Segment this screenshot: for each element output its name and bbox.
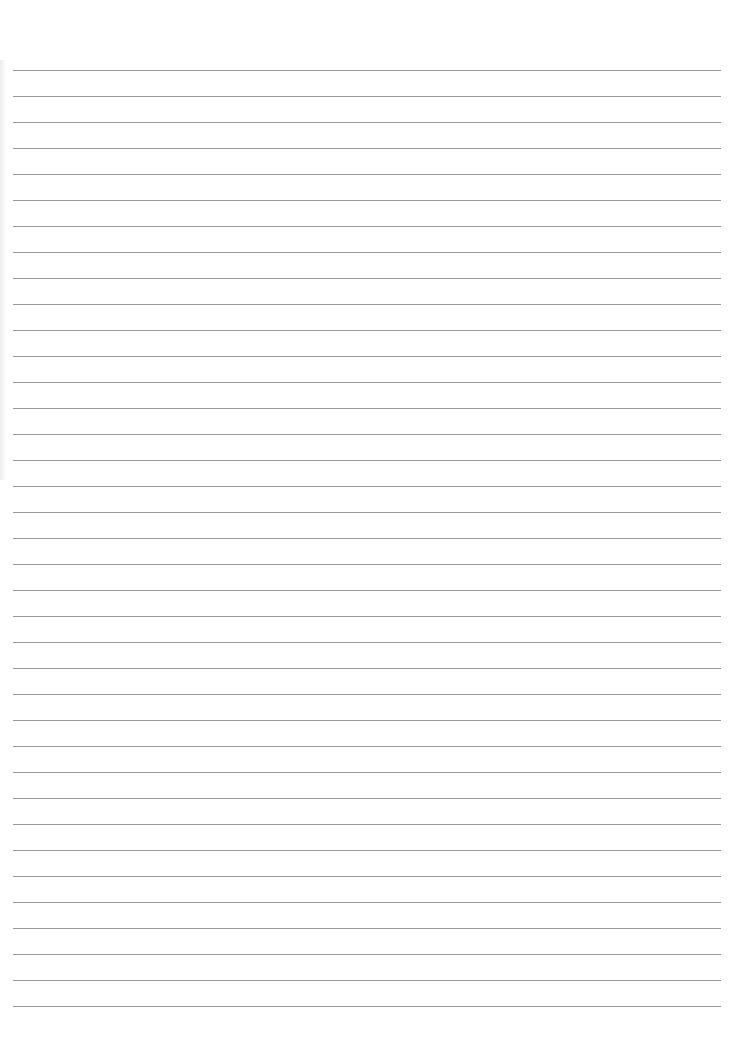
ruled-line (13, 902, 721, 903)
ruled-line (13, 928, 721, 929)
ruled-line (13, 590, 721, 591)
ruled-line (13, 200, 721, 201)
ruled-line (13, 538, 721, 539)
ruled-line (13, 642, 721, 643)
ruled-line (13, 564, 721, 565)
ruled-line (13, 876, 721, 877)
ruled-line (13, 356, 721, 357)
ruled-line (13, 408, 721, 409)
ruled-line (13, 382, 721, 383)
ruled-line (13, 720, 721, 721)
ruled-line (13, 96, 721, 97)
ruled-line (13, 252, 721, 253)
ruled-line (13, 512, 721, 513)
ruled-line (13, 850, 721, 851)
ruled-line (13, 954, 721, 955)
ruled-line (13, 460, 721, 461)
ruled-line (13, 174, 721, 175)
ruled-line (13, 694, 721, 695)
ruled-line (13, 668, 721, 669)
ruled-line (13, 824, 721, 825)
ruled-line (13, 330, 721, 331)
ruled-line (13, 1006, 721, 1007)
ruled-line (13, 434, 721, 435)
ruled-line (13, 980, 721, 981)
ruled-line (13, 70, 721, 71)
ruled-line (13, 122, 721, 123)
ruled-line (13, 278, 721, 279)
ruled-line (13, 616, 721, 617)
ruled-line (13, 148, 721, 149)
ruled-line (13, 746, 721, 747)
binding-edge-shadow (0, 60, 6, 480)
ruled-line (13, 226, 721, 227)
ruled-line (13, 798, 721, 799)
lined-paper-page (0, 0, 754, 1044)
ruled-line (13, 772, 721, 773)
ruled-line (13, 304, 721, 305)
ruled-line (13, 486, 721, 487)
